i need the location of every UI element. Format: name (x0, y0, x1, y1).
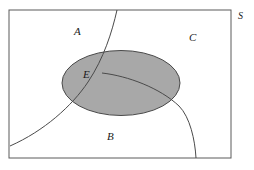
set-diagram-canvas: A C B E S (0, 0, 254, 170)
region-label-b: B (107, 130, 114, 142)
diagram-root: A C B E S (0, 0, 254, 170)
universe-label-s: S (238, 10, 243, 21)
event-label-e: E (82, 68, 90, 80)
event-ellipse-e (62, 51, 180, 116)
region-label-a: A (73, 25, 81, 37)
region-label-c: C (189, 31, 197, 43)
